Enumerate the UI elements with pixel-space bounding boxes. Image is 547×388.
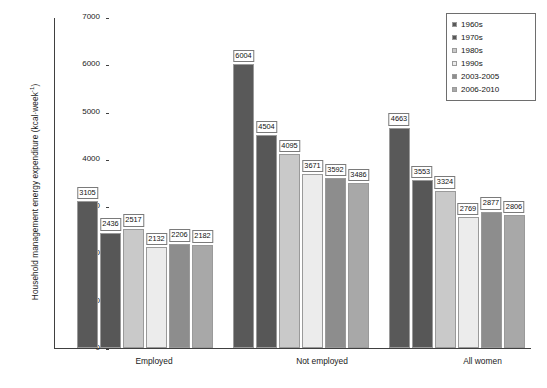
bar-2003-2005[interactable] bbox=[325, 178, 346, 348]
bar-slot: 3553 bbox=[412, 18, 433, 348]
bar-value-label: 3324 bbox=[434, 176, 455, 189]
bar-1970s[interactable] bbox=[256, 135, 277, 348]
legend-item-label: 2003-2005 bbox=[461, 70, 499, 83]
bar-value-label: 3553 bbox=[411, 166, 432, 179]
bar-1980s[interactable] bbox=[123, 229, 144, 348]
legend-item-label: 1980s bbox=[461, 44, 483, 57]
legend-item-2003-2005[interactable]: 2003-2005 bbox=[452, 70, 531, 83]
legend-item-label: 1960s bbox=[461, 18, 483, 31]
bar-1980s[interactable] bbox=[279, 154, 300, 348]
bar-group-employed: 310524362517213222062182 bbox=[55, 18, 219, 348]
x-axis-label-employed: Employed bbox=[54, 356, 236, 374]
legend-swatch-icon bbox=[452, 61, 457, 66]
bar-slot: 6004 bbox=[233, 18, 254, 348]
bar-slot: 2132 bbox=[146, 18, 167, 348]
bar-slot: 2436 bbox=[100, 18, 121, 348]
bar-value-label: 4663 bbox=[388, 113, 409, 126]
bar-value-label: 2769 bbox=[457, 203, 478, 216]
bar-slot: 4663 bbox=[389, 18, 410, 348]
bar-1970s[interactable] bbox=[412, 180, 433, 348]
legend: 1960s1970s1980s1990s2003-20052006-2010 bbox=[446, 13, 536, 101]
bar-slot: 2517 bbox=[123, 18, 144, 348]
bar-value-label: 2132 bbox=[146, 233, 167, 246]
bar-value-label: 2517 bbox=[123, 214, 144, 227]
bar-1960s[interactable] bbox=[389, 128, 410, 348]
bar-value-label: 4095 bbox=[279, 140, 300, 153]
bar-value-label: 2206 bbox=[169, 229, 190, 242]
bar-2006-2010[interactable] bbox=[348, 183, 369, 348]
bar-value-label: 2436 bbox=[100, 218, 121, 231]
x-axis-label-not-employed: Not employed bbox=[236, 356, 402, 374]
legend-item-label: 1990s bbox=[461, 57, 483, 70]
legend-item-1970s[interactable]: 1970s bbox=[452, 31, 531, 44]
legend-swatch-icon bbox=[452, 48, 457, 53]
bar-1990s[interactable] bbox=[302, 174, 323, 348]
x-axis-label-all-women: All women bbox=[402, 356, 547, 374]
x-axis-category-labels: EmployedNot employedAll women bbox=[54, 356, 531, 374]
y-axis-title-text: Household management energy expenditure … bbox=[31, 92, 40, 300]
bar-slot: 2206 bbox=[169, 18, 190, 348]
y-axis-title: Household management energy expenditure … bbox=[28, 62, 40, 322]
bar-chart: Household management energy expenditure … bbox=[0, 0, 547, 388]
legend-item-label: 2006-2010 bbox=[461, 83, 499, 96]
bar-slot: 4095 bbox=[279, 18, 300, 348]
bar-value-label: 2806 bbox=[503, 201, 524, 214]
bar-slot: 3671 bbox=[302, 18, 323, 348]
bar-1960s[interactable] bbox=[233, 64, 254, 348]
bar-value-label: 3592 bbox=[325, 164, 346, 177]
bar-value-label: 3486 bbox=[348, 169, 369, 182]
legend-item-label: 1970s bbox=[461, 31, 483, 44]
legend-item-1980s[interactable]: 1980s bbox=[452, 44, 531, 57]
bar-1980s[interactable] bbox=[435, 191, 456, 348]
bar-1960s[interactable] bbox=[77, 201, 98, 348]
bar-slot: 4504 bbox=[256, 18, 277, 348]
bar-slot: 3486 bbox=[348, 18, 369, 348]
bar-1990s[interactable] bbox=[146, 247, 167, 348]
bar-value-label: 3105 bbox=[77, 187, 98, 200]
bar-1970s[interactable] bbox=[100, 233, 121, 348]
bar-value-label: 4504 bbox=[256, 121, 277, 134]
legend-swatch-icon bbox=[452, 74, 457, 79]
bar-slot: 3592 bbox=[325, 18, 346, 348]
y-axis-tick-mark bbox=[106, 349, 109, 350]
y-axis-title-exponent: -1 bbox=[28, 86, 35, 92]
bar-1990s[interactable] bbox=[458, 217, 479, 348]
legend-item-1990s[interactable]: 1990s bbox=[452, 57, 531, 70]
bar-slot: 3105 bbox=[77, 18, 98, 348]
legend-item-2006-2010[interactable]: 2006-2010 bbox=[452, 83, 531, 96]
bar-group-not-employed: 600445044095367135923486 bbox=[219, 18, 379, 348]
legend-swatch-icon bbox=[452, 87, 457, 92]
y-axis-title-suffix: ) bbox=[31, 84, 40, 87]
bar-2003-2005[interactable] bbox=[481, 212, 502, 348]
bar-2006-2010[interactable] bbox=[504, 215, 525, 348]
bar-2006-2010[interactable] bbox=[192, 245, 213, 348]
bar-value-label: 3671 bbox=[302, 160, 323, 173]
bar-value-label: 6004 bbox=[233, 50, 254, 63]
bar-value-label: 2877 bbox=[480, 197, 501, 210]
bar-value-label: 2182 bbox=[192, 230, 213, 243]
bar-2003-2005[interactable] bbox=[169, 244, 190, 348]
bar-slot: 2182 bbox=[192, 18, 213, 348]
legend-item-1960s[interactable]: 1960s bbox=[452, 18, 531, 31]
legend-swatch-icon bbox=[452, 22, 457, 27]
legend-swatch-icon bbox=[452, 35, 457, 40]
